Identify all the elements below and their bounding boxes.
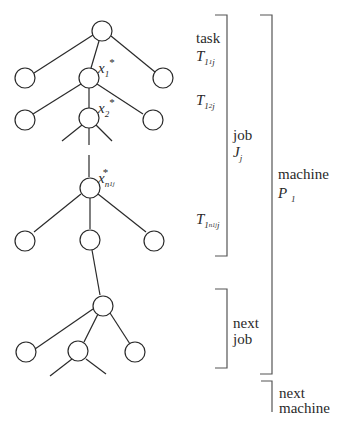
leaf-node	[15, 231, 35, 251]
next-job-label-2: job	[233, 331, 252, 347]
leaf-node	[16, 342, 36, 362]
jj-label: Jj	[233, 144, 242, 166]
next-job-bracket	[215, 289, 227, 368]
x1-label: x1*	[98, 60, 115, 82]
leaf-node	[15, 110, 35, 130]
machine-label: machine	[278, 166, 329, 182]
p1-label: P 1	[278, 185, 295, 207]
next-job-label-1: next	[233, 315, 259, 331]
next-machine-label-2: machine	[279, 400, 330, 416]
x1-node	[79, 68, 99, 88]
t12j-label: T12j	[196, 92, 215, 114]
t11j-label: T11j	[196, 48, 215, 70]
x2-node	[79, 108, 99, 128]
root-node	[92, 21, 112, 41]
x2-label: x2*	[98, 100, 115, 122]
leaf-node	[15, 68, 35, 88]
leaf-node	[144, 231, 164, 251]
task-label: task	[196, 30, 220, 46]
t1n1jj-label: T1n1jj	[196, 211, 220, 233]
xn1j-node	[80, 178, 100, 198]
subtree-root-node	[93, 296, 113, 316]
tree-diagram	[0, 0, 344, 424]
job-label: job	[233, 127, 252, 143]
next-machine-label-1: next	[279, 385, 305, 401]
machine-bracket	[260, 15, 272, 374]
leaf-node	[143, 110, 163, 130]
leaf-node	[80, 230, 100, 250]
leaf-node	[68, 341, 88, 361]
leaf-node	[153, 68, 173, 88]
xn1j-label: xn1j*	[98, 170, 108, 192]
leaf-node	[125, 342, 145, 362]
next-machine-bracket	[261, 381, 272, 412]
